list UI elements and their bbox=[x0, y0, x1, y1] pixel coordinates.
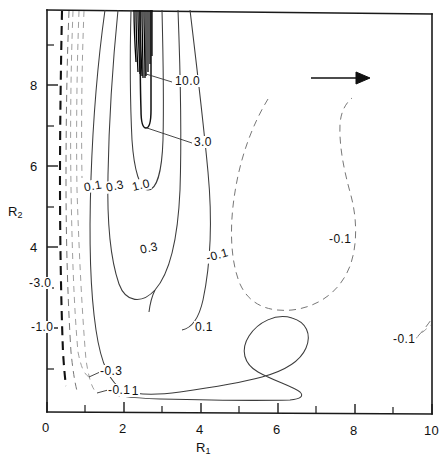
contour-figure: 0 2 4 6 8 10 8 6 4 2 R1 R2 10.0 3.0 1.0 … bbox=[0, 0, 447, 460]
contour-label-neg0-1-bottomright: -0.1 bbox=[392, 333, 416, 345]
plot-frame bbox=[47, 10, 432, 414]
contour-label-neg1-0: -1.0 bbox=[30, 321, 54, 333]
x-tick-label-10: 10 bbox=[424, 424, 439, 437]
leader-10-0 bbox=[146, 74, 172, 82]
y-tick-label-8: 8 bbox=[30, 79, 38, 92]
contour-neg0-1-left bbox=[77, 11, 97, 393]
contour-label-0-1-mid: 0.1 bbox=[194, 321, 214, 333]
contour-label-0-1-upper: 0.1 bbox=[82, 178, 104, 193]
x-tick-label-6: 6 bbox=[273, 423, 281, 436]
contours-negative-left bbox=[60, 11, 108, 393]
x-axis-title: R1 bbox=[196, 441, 210, 456]
y-tick-label-4: 4 bbox=[30, 241, 38, 254]
contour-0-1-right-branch bbox=[182, 10, 210, 330]
contour-0-1-path bbox=[90, 10, 308, 400]
contour-neg3-0 bbox=[60, 11, 66, 386]
x-axis-title-text: R bbox=[196, 440, 205, 455]
contour-plot-canvas bbox=[0, 0, 447, 460]
x-tick-label-8: 8 bbox=[350, 424, 358, 437]
contour-label-10-0: 10.0 bbox=[174, 75, 201, 87]
y-axis-title: R2 bbox=[8, 205, 22, 220]
contour-label-neg3-0: -3.0 bbox=[28, 277, 52, 289]
contours-dense-bundle bbox=[134, 10, 152, 128]
contour-neg0-1-horseshoe bbox=[231, 98, 431, 340]
contour-label-neg0-1-lowerleft: -0.1 bbox=[107, 384, 131, 396]
x-axis-title-sub: 1 bbox=[205, 446, 210, 456]
contour-label-3-0: 3.0 bbox=[193, 136, 213, 148]
leader-3-0 bbox=[147, 128, 192, 143]
x-tick-label-0: 0 bbox=[42, 421, 50, 434]
contour-neg-companion bbox=[82, 11, 84, 178]
contour-neg0-1-main bbox=[231, 98, 355, 310]
contour-neg0-1-fragment-b bbox=[414, 325, 431, 340]
contour-label-neg0-3: -0.3 bbox=[99, 365, 123, 377]
y-axis-title-text: R bbox=[8, 204, 17, 219]
contour-neg0-1-fragment bbox=[418, 320, 431, 336]
contour-0-1-outer bbox=[90, 10, 308, 400]
x-tick-label-2: 2 bbox=[119, 422, 127, 435]
y-axis-title-sub: 2 bbox=[17, 210, 22, 220]
direction-arrow bbox=[311, 72, 370, 84]
y-tick-label-6: 6 bbox=[30, 160, 38, 173]
x-tick-label-4: 4 bbox=[196, 423, 204, 436]
contour-label-neg0-1-right: -0.1 bbox=[328, 233, 352, 245]
